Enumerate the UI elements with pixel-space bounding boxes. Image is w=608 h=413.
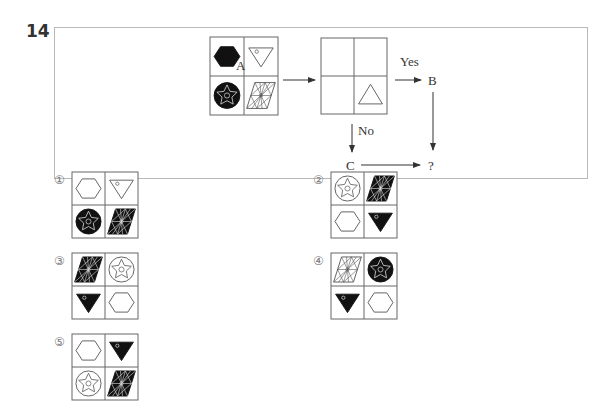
c-label: C xyxy=(346,158,355,173)
arrow-a-label: A xyxy=(236,58,246,73)
option-label: ④ xyxy=(313,254,324,268)
option-3[interactable]: ③ xyxy=(54,253,138,319)
no-label: No xyxy=(358,123,374,138)
diagram-canvas: A Yes B No C ? ①②③④⑤ xyxy=(0,0,608,413)
yes-label: Yes xyxy=(400,54,419,69)
b-label: B xyxy=(428,73,437,88)
grid-cell xyxy=(76,209,101,234)
test-figure xyxy=(321,38,387,114)
option-label: ① xyxy=(54,173,65,187)
grid-cell xyxy=(214,83,240,109)
circle-shape xyxy=(214,83,240,109)
option-label: ⑤ xyxy=(54,335,65,349)
option-grid xyxy=(72,172,138,238)
circle-shape xyxy=(368,257,393,282)
option-grid xyxy=(72,253,138,319)
option-grid xyxy=(331,253,397,319)
input-figure xyxy=(210,37,278,115)
option-4[interactable]: ④ xyxy=(313,253,397,319)
option-1[interactable]: ① xyxy=(54,172,138,238)
option-grid xyxy=(331,172,397,238)
grid-cell xyxy=(368,257,393,282)
option-2[interactable]: ② xyxy=(313,172,397,238)
option-label: ③ xyxy=(54,254,65,268)
circle-shape xyxy=(76,209,101,234)
result-label: ? xyxy=(428,158,434,173)
option-grid xyxy=(72,334,138,400)
option-label: ② xyxy=(313,173,324,187)
option-5[interactable]: ⑤ xyxy=(54,334,138,400)
